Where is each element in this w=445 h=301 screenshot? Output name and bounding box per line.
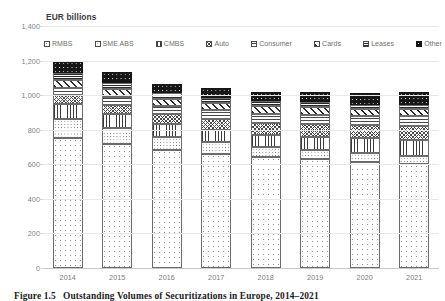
bar-segment-sme-abs[interactable] — [53, 119, 83, 137]
bar-segment-rmbs[interactable] — [350, 162, 380, 268]
y-axis-tick-label: 0 — [2, 264, 40, 273]
bar-segment-sme-abs[interactable] — [152, 137, 182, 151]
y-axis-tick-label: 1,200 — [2, 56, 40, 65]
bar-segment-cmbs[interactable] — [399, 140, 429, 156]
bar-segment-other[interactable] — [201, 88, 231, 98]
y-axis-tick-label: 1,000 — [2, 91, 40, 100]
bar-column[interactable] — [201, 88, 231, 268]
bar-segment-leases[interactable] — [350, 105, 380, 109]
gridline — [43, 164, 439, 165]
bar-segment-cmbs[interactable] — [251, 135, 281, 146]
bar-segment-rmbs[interactable] — [53, 138, 83, 269]
bar-segment-leases[interactable] — [201, 98, 231, 103]
y-axis-tick-label: 200 — [2, 229, 40, 238]
bar-segment-other[interactable] — [152, 84, 182, 93]
bar-segment-consumer[interactable] — [102, 97, 132, 105]
bar-segment-other[interactable] — [251, 92, 281, 102]
bar-segment-rmbs[interactable] — [102, 144, 132, 268]
bar-column[interactable] — [350, 93, 380, 268]
bar-segment-cmbs[interactable] — [102, 114, 132, 128]
gridline — [43, 61, 439, 62]
bar-segment-sme-abs[interactable] — [300, 150, 330, 160]
bar-segment-other[interactable] — [53, 61, 83, 73]
bar-segment-sme-abs[interactable] — [201, 142, 231, 154]
bar-column[interactable] — [102, 72, 132, 268]
x-axis-tick-label: 2020 — [340, 273, 390, 282]
caption-text: Outstanding Volumes of Securitizations i… — [63, 291, 319, 301]
bar-segment-other[interactable] — [300, 92, 330, 102]
bar-segment-consumer[interactable] — [152, 106, 182, 114]
y-axis-tick-label: 600 — [2, 160, 40, 169]
bar-segment-leases[interactable] — [102, 83, 132, 90]
bar-segment-cards[interactable] — [201, 103, 231, 110]
bar-segment-consumer[interactable] — [53, 88, 83, 95]
plot-area: 20142015201620172018201920202021 — [43, 0, 439, 299]
gridline — [43, 95, 439, 96]
gridline — [43, 26, 439, 27]
x-axis-tick-label: 2015 — [93, 273, 143, 282]
bar-segment-consumer[interactable] — [201, 110, 231, 119]
bar-segment-leases[interactable] — [251, 101, 281, 106]
bar-segment-consumer[interactable] — [300, 115, 330, 125]
bar-segment-cards[interactable] — [399, 109, 429, 116]
bar-segment-auto[interactable] — [53, 95, 83, 104]
bar-segment-auto[interactable] — [399, 126, 429, 139]
bar-segment-rmbs[interactable] — [399, 164, 429, 268]
bar-segment-auto[interactable] — [152, 114, 182, 124]
bar-segment-leases[interactable] — [300, 102, 330, 107]
bar-segment-rmbs[interactable] — [152, 150, 182, 268]
bar-segment-other[interactable] — [399, 92, 429, 105]
y-axis-tick-label: 1,400 — [2, 22, 40, 31]
bar-segment-consumer[interactable] — [350, 116, 380, 125]
x-axis-tick-label: 2021 — [390, 273, 440, 282]
bar-segment-other[interactable] — [102, 72, 132, 83]
x-axis-tick-label: 2019 — [291, 273, 341, 282]
bar-segment-cards[interactable] — [300, 107, 330, 115]
y-axis: 1,4001,2001,0008006004002000 — [0, 0, 40, 299]
x-axis-tick-label: 2018 — [241, 273, 291, 282]
bar-segment-consumer[interactable] — [251, 114, 281, 123]
bar-column[interactable] — [300, 92, 330, 268]
x-axis-line — [43, 268, 439, 269]
bar-segment-rmbs[interactable] — [251, 157, 281, 268]
bar-segment-leases[interactable] — [53, 73, 83, 80]
bar-segment-auto[interactable] — [201, 119, 231, 130]
bar-segment-cards[interactable] — [53, 80, 83, 88]
bar-segment-sme-abs[interactable] — [251, 147, 281, 158]
bar-segment-rmbs[interactable] — [300, 159, 330, 268]
gridline — [43, 233, 439, 234]
bar-segment-rmbs[interactable] — [201, 154, 231, 268]
figure-caption: Figure 1.5Outstanding Volumes of Securit… — [14, 291, 319, 301]
bar-segment-auto[interactable] — [350, 125, 380, 137]
bar-column[interactable] — [399, 92, 429, 268]
x-axis-tick-label: 2014 — [43, 273, 93, 282]
bar-segment-sme-abs[interactable] — [399, 156, 429, 164]
bar-segment-cmbs[interactable] — [201, 130, 231, 142]
bar-segment-cards[interactable] — [152, 99, 182, 106]
bar-column[interactable] — [152, 84, 182, 268]
x-axis-tick-label: 2017 — [192, 273, 242, 282]
y-axis-tick-label: 400 — [2, 194, 40, 203]
bar-segment-leases[interactable] — [399, 105, 429, 109]
bar-segment-cmbs[interactable] — [300, 137, 330, 149]
bar-column[interactable] — [251, 92, 281, 268]
x-axis-tick-label: 2016 — [142, 273, 192, 282]
bar-segment-consumer[interactable] — [399, 116, 429, 126]
bar-segment-cards[interactable] — [350, 109, 380, 116]
y-axis-tick-label: 800 — [2, 125, 40, 134]
caption-number: Figure 1.5 — [14, 291, 56, 301]
bar-segment-cmbs[interactable] — [350, 138, 380, 153]
bar-segment-cards[interactable] — [251, 106, 281, 114]
bar-segment-sme-abs[interactable] — [350, 153, 380, 162]
gridline — [43, 130, 439, 131]
gridline — [43, 199, 439, 200]
bar-segment-auto[interactable] — [102, 105, 132, 115]
bar-segment-auto[interactable] — [300, 124, 330, 137]
bar-segment-cmbs[interactable] — [53, 104, 83, 119]
